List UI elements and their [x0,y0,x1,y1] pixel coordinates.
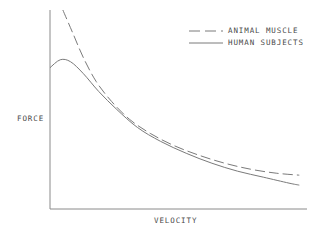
chart-legend: ANIMAL MUSCLE HUMAN SUBJECTS [189,26,314,50]
series-line-human-subjects [50,59,299,185]
legend-swatch-solid-line [189,38,223,48]
legend-item-animal-muscle: ANIMAL MUSCLE [189,26,314,36]
legend-label-human-subjects: HUMAN SUBJECTS [228,38,304,48]
y-axis-title: FORCE [17,114,44,123]
force-velocity-chart: FORCE VELOCITY ANIMAL MUSCLE HUMAN SUBJE… [0,0,323,239]
legend-item-human-subjects: HUMAN SUBJECTS [189,38,314,48]
legend-label-animal-muscle: ANIMAL MUSCLE [228,26,298,36]
legend-swatch-dashed-line [189,26,223,36]
x-axis-title: VELOCITY [154,216,197,225]
